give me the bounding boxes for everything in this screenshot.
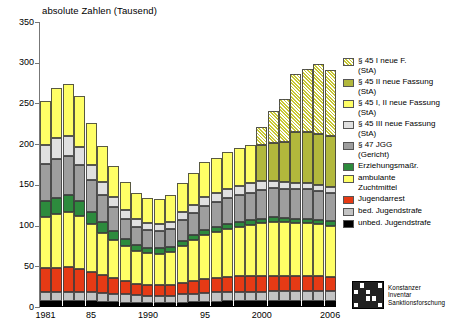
bar-segment: [86, 272, 97, 292]
bar-segment: [86, 165, 97, 180]
bar-segment: [108, 166, 119, 197]
bar-segment: [279, 291, 290, 301]
bar-segment: [74, 301, 85, 307]
bar-segment: [222, 224, 233, 228]
bar-segment: [211, 232, 222, 278]
bar-segment: [245, 292, 256, 302]
plot-area: [40, 22, 336, 307]
bar-segment: [97, 182, 108, 195]
bar-segment: [63, 212, 74, 267]
bar-segment: [234, 186, 245, 196]
bar-segment: [211, 278, 222, 292]
bar-segment: [63, 195, 74, 211]
legend-swatch: [343, 58, 354, 66]
bar-segment: [177, 246, 188, 283]
bar-segment: [177, 220, 188, 240]
bar-segment: [234, 276, 245, 291]
bar-segment: [256, 292, 267, 302]
y-tick-label: 150: [8, 180, 34, 189]
bar-segment: [120, 303, 131, 307]
bar-segment: [325, 301, 336, 307]
bar-segment: [165, 229, 176, 247]
bar-segment: [313, 191, 324, 220]
legend-item: Erziehungsmaßr.: [343, 161, 465, 171]
bar-segment: [279, 182, 290, 189]
bar-segment: [165, 247, 176, 252]
chart-legend: § 45 I neue F. (StA)§ 45 II neue Fassung…: [343, 56, 465, 230]
bar-segment: [165, 296, 176, 303]
bar-segment: [222, 292, 233, 302]
bar-segment: [279, 99, 290, 142]
bar-segment: [120, 294, 131, 302]
bar-segment: [108, 302, 119, 307]
bar-segment: [325, 221, 336, 225]
bar-segment: [222, 277, 233, 292]
legend-item: § 47 JGG (Gericht): [343, 140, 465, 159]
bar-segment: [279, 189, 290, 218]
legend-swatch: [343, 196, 354, 204]
bar-segment: [256, 223, 267, 276]
bar-segment: [245, 193, 256, 221]
bar-segment: [108, 278, 119, 293]
bar-segment: [177, 283, 188, 294]
logo-line-1: Konstanzer: [388, 284, 445, 292]
bar-segment: [142, 303, 153, 307]
legend-item: § 45 I, II neue Fassung (StA): [343, 98, 465, 117]
bar-segment: [154, 296, 165, 303]
bar-segment: [63, 292, 74, 302]
bar-segment: [245, 225, 256, 276]
legend-swatch: [343, 100, 354, 108]
bar-segment: [245, 183, 256, 193]
bar-segment: [199, 293, 210, 302]
bar-segment: [40, 217, 51, 268]
logo-line-3: Sanktionsforschung: [388, 299, 445, 307]
legend-label: ambulante Zuchtmittel: [358, 173, 397, 192]
bar-segment: [120, 246, 131, 281]
bar-segment: [268, 188, 279, 217]
legend-label: bed. Jugendstrafe: [358, 206, 422, 216]
bar-segment: [177, 183, 188, 212]
bar-segment: [199, 279, 210, 293]
bar-segment: [268, 143, 279, 181]
legend-label: Erziehungsmaßr.: [358, 161, 418, 171]
bar-segment: [86, 212, 97, 224]
legend-item: Jugendarrest: [343, 194, 465, 204]
bar-1981: [40, 101, 51, 307]
bar-segment: [325, 226, 336, 277]
bar-1992: [165, 195, 176, 307]
legend-swatch: [343, 79, 354, 87]
bar-segment: [268, 291, 279, 301]
logo-line-2: Inventar: [388, 291, 445, 299]
legend-item: unbed. Jugendstrafe: [343, 218, 465, 228]
bar-segment: [165, 195, 176, 221]
legend-item: § 45 II neue Fassung (StA): [343, 77, 465, 96]
legend-item: § 45 I neue F. (StA): [343, 56, 465, 75]
bar-segment: [40, 268, 51, 292]
bar-1987: [108, 166, 119, 307]
x-tick-label: 2006: [310, 311, 350, 320]
bar-segment: [51, 138, 62, 158]
bar-1995: [199, 162, 210, 307]
bar-segment: [74, 165, 85, 202]
bar-segment: [74, 96, 85, 146]
chart-title: absolute Zahlen (Tausend): [42, 5, 157, 16]
bar-segment: [268, 222, 279, 276]
bar-1982: [51, 88, 62, 307]
bar-segment: [40, 292, 51, 302]
bar-segment: [120, 281, 131, 294]
bar-segment: [97, 293, 108, 302]
bar-segment: [222, 229, 233, 277]
x-tick-label: 85: [71, 311, 111, 320]
bar-segment: [188, 235, 199, 240]
bar-segment: [290, 219, 301, 223]
bar-segment: [142, 223, 153, 230]
legend-swatch: [343, 220, 354, 228]
bar-segment: [97, 302, 108, 307]
bar-segment: [97, 233, 108, 275]
bar-segment: [313, 291, 324, 301]
bar-segment: [211, 193, 222, 202]
bar-segment: [142, 230, 153, 247]
bar-segment: [74, 147, 85, 165]
bar-segment: [188, 302, 199, 307]
bar-2004: [302, 69, 313, 307]
